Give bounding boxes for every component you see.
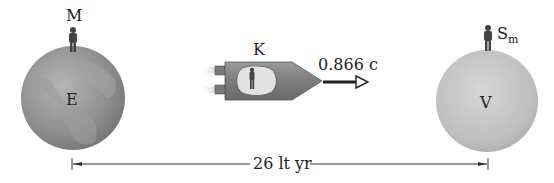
velocity-arrow [323, 76, 368, 88]
observer-subscript: m [508, 33, 518, 46]
speed-label: 0.866 c [318, 55, 378, 74]
earth-label: E [66, 90, 78, 109]
rocket-label: K [253, 40, 265, 59]
venus-label: V [480, 93, 492, 112]
rocket-k [200, 62, 322, 100]
observer-sm-figure [484, 25, 492, 51]
observer-m-label: M [66, 6, 82, 25]
distance-label: 26 lt yr [253, 154, 312, 173]
observer-s: S [497, 24, 508, 43]
observer-sm-label: Sm [497, 24, 518, 46]
